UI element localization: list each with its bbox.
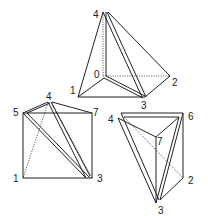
label-3: 3	[158, 205, 164, 216]
label-4: 4	[46, 91, 52, 102]
label-1: 1	[70, 85, 76, 96]
label-6: 6	[188, 111, 194, 122]
label-2: 2	[172, 77, 178, 88]
label-7: 7	[93, 107, 99, 118]
right-figure: 4 6 7 2 3	[108, 111, 194, 216]
top-figure: 4 0 1 2 3	[70, 9, 178, 111]
label-0: 0	[94, 69, 100, 80]
label-2: 2	[188, 175, 194, 186]
left-figure: 4 5 7 1 3	[13, 91, 103, 184]
label-5: 5	[13, 107, 19, 118]
label-1: 1	[13, 173, 19, 184]
label-4: 4	[108, 114, 114, 125]
label-4: 4	[93, 9, 99, 20]
label-3: 3	[141, 100, 147, 111]
label-7: 7	[157, 136, 163, 147]
label-3: 3	[97, 173, 103, 184]
polyhedra-diagram: 4 0 1 2 3 4 5 7 1 3 4 6	[0, 0, 208, 216]
